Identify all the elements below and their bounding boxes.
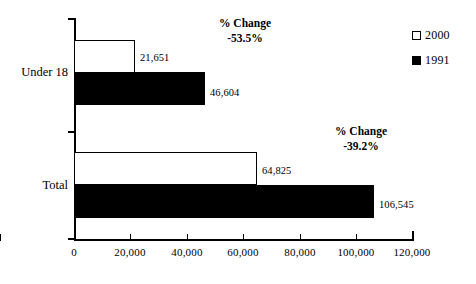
- x-tick-label-40000: 40,000: [171, 246, 202, 258]
- category-label-total: Total: [4, 178, 68, 193]
- y-axis-top-tick: [68, 18, 76, 20]
- bar-under18-1991: [74, 72, 205, 105]
- bar-value-under18-2000: 21,651: [140, 52, 169, 63]
- x-tick-label-0: 0: [71, 246, 77, 258]
- x-tick-label-60000: 60,000: [227, 246, 258, 258]
- pct-change-annotation-under18: % Change -53.5%: [190, 16, 300, 46]
- legend-item-1991[interactable]: 1991: [412, 53, 450, 68]
- pct-change-value-total: -39.2%: [306, 139, 416, 154]
- pct-change-title-total: % Change: [306, 124, 416, 139]
- x-tick-label-80000: 80,000: [284, 246, 315, 258]
- category-label-under-18: Under 18: [4, 65, 68, 80]
- legend-swatch-2000-icon: [412, 31, 421, 40]
- bar-value-total-1991: 106,545: [379, 199, 414, 210]
- bar-total-1991: [74, 185, 374, 218]
- x-tick-0: [74, 234, 75, 241]
- bar-total-2000: [74, 152, 257, 185]
- pct-change-value-under18: -53.5%: [190, 31, 300, 46]
- legend-label-1991: 1991: [425, 53, 450, 68]
- x-tick-40000: [187, 234, 188, 241]
- x-tick-100000: [356, 234, 357, 241]
- bar-chart: 0 20,000 40,000 60,000 80,000 100,000 12…: [0, 0, 476, 284]
- x-tick-120000: [412, 234, 413, 241]
- x-tick-80000: [300, 234, 301, 241]
- x-tick-1: [0, 234, 1, 241]
- x-axis-line: [74, 239, 414, 241]
- legend: 2000 1991: [412, 28, 450, 78]
- pct-change-annotation-total: % Change -39.2%: [306, 124, 416, 154]
- bar-under18-2000: [74, 40, 135, 73]
- bar-value-total-2000: 64,825: [262, 165, 291, 176]
- y-axis-category-tick: [68, 131, 75, 133]
- x-tick-20000: [130, 234, 131, 241]
- x-tick-label-100000: 100,000: [337, 246, 374, 258]
- legend-swatch-1991-icon: [412, 56, 421, 65]
- legend-item-2000[interactable]: 2000: [412, 28, 450, 43]
- x-tick-label-120000: 120,000: [393, 246, 430, 258]
- pct-change-title-under18: % Change: [190, 16, 300, 31]
- x-tick-label-20000: 20,000: [114, 246, 145, 258]
- x-tick-60000: [243, 234, 244, 241]
- legend-label-2000: 2000: [425, 28, 450, 43]
- bar-value-under18-1991: 46,604: [210, 87, 239, 98]
